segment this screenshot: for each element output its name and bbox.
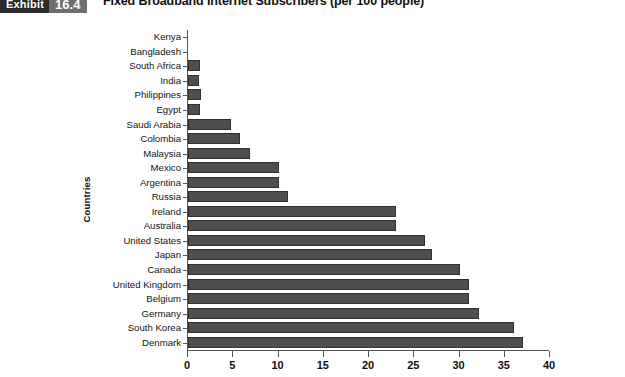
x-axis-tick — [187, 351, 188, 357]
category-label: Colombia — [140, 132, 181, 146]
category-label: Japan — [155, 248, 181, 262]
x-axis-tick-label: 25 — [407, 359, 419, 371]
category-label: India — [160, 74, 181, 88]
x-axis-tick — [278, 351, 279, 357]
x-axis-tick-label: 5 — [229, 359, 235, 371]
x-axis-tick-label: 15 — [317, 359, 329, 371]
x-axis-tick — [232, 351, 233, 357]
category-label: Saudi Arabia — [127, 118, 181, 132]
category-label: Germany — [142, 307, 181, 321]
x-axis-tick-label: 35 — [498, 359, 510, 371]
chart-title: Fixed Broadband Internet Subscribers (pe… — [103, 0, 424, 8]
category-label: United States — [123, 234, 181, 248]
category-label: Denmark — [142, 336, 181, 350]
x-axis-tick-label: 20 — [362, 359, 374, 371]
x-axis-tick-label: 10 — [271, 359, 283, 371]
x-axis-tick — [459, 351, 460, 357]
category-label: Argentina — [140, 176, 181, 190]
x-axis-ticks: 0510152025303540 — [187, 24, 549, 377]
exhibit-label: Exhibit — [0, 0, 49, 13]
x-axis-tick-label: 30 — [452, 359, 464, 371]
exhibit-number-badge: 16.4 — [49, 0, 87, 13]
bar-chart: Countries KenyaBangladeshSouth AfricaInd… — [0, 24, 625, 377]
y-axis-title-text: Countries — [81, 176, 92, 222]
x-axis-tick — [323, 351, 324, 357]
x-axis-tick-label: 0 — [184, 359, 190, 371]
category-label: United Kingdom — [113, 278, 181, 292]
category-label: South Korea — [128, 321, 181, 335]
x-axis-tick — [368, 351, 369, 357]
category-label: Bangladesh — [130, 45, 181, 59]
category-label: Mexico — [151, 161, 181, 175]
category-label: Kenya — [154, 30, 181, 44]
category-label: Belgium — [146, 292, 181, 306]
category-label: Egypt — [156, 103, 181, 117]
x-axis-tick — [504, 351, 505, 357]
x-axis-tick — [549, 351, 550, 357]
y-axis-title: Countries — [78, 154, 94, 244]
category-label: Malaysia — [143, 147, 181, 161]
category-label: Ireland — [152, 205, 181, 219]
category-label: Philippines — [135, 88, 181, 102]
category-label: South Africa — [129, 59, 181, 73]
category-label: Canada — [147, 263, 181, 277]
x-axis-tick — [413, 351, 414, 357]
category-label: Australia — [144, 219, 181, 233]
x-axis-tick-label: 40 — [543, 359, 555, 371]
exhibit-header: Exhibit 16.4 — [0, 0, 87, 14]
category-label: Russia — [152, 190, 181, 204]
